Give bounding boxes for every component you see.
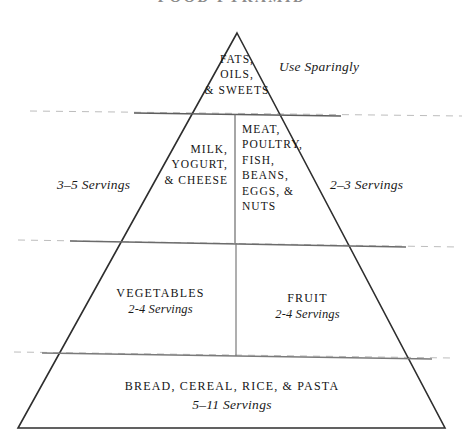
group-fruit: FRUIT 2-4 Servings bbox=[250, 290, 365, 323]
milk-line-3: & CHEESE bbox=[128, 173, 228, 188]
food-pyramid-figure: FOOD PYRAMID FATS, OILS, & SWEETS Use Sp… bbox=[0, 0, 464, 447]
use-sparingly-note: Use Sparingly bbox=[279, 58, 359, 76]
meat-line-3: FISH, bbox=[242, 153, 352, 168]
milk-line-1: MILK, bbox=[128, 142, 228, 157]
servings-fruit: 2-4 Servings bbox=[250, 306, 365, 323]
tier-divider-3 bbox=[42, 353, 432, 359]
meat-line-1: MEAT, bbox=[242, 122, 352, 137]
servings-meat-group: 2–3 Servings bbox=[330, 176, 403, 194]
meat-line-6: NUTS bbox=[242, 199, 352, 214]
vegetables-label: VEGETABLES bbox=[98, 285, 223, 301]
group-vegetables: VEGETABLES 2-4 Servings bbox=[98, 285, 223, 318]
base-label: BREAD, CEREAL, RICE, & PASTA bbox=[92, 378, 372, 394]
meat-line-2: POULTRY, bbox=[242, 137, 352, 152]
servings-milk-group: 3–5 Servings bbox=[57, 176, 130, 194]
group-meat-poultry-fish: MEAT, POULTRY, FISH, BEANS, EGGS, & NUTS bbox=[242, 122, 352, 214]
servings-vegetables: 2-4 Servings bbox=[98, 301, 223, 318]
group-bread-cereal-rice-pasta: BREAD, CEREAL, RICE, & PASTA 5–11 Servin… bbox=[92, 378, 372, 414]
fats-line-3: & SWEETS bbox=[172, 83, 302, 98]
servings-base: 5–11 Servings bbox=[92, 396, 372, 414]
group-milk-yogurt-cheese: MILK, YOGURT, & CHEESE bbox=[128, 142, 228, 188]
milk-line-2: YOGURT, bbox=[128, 157, 228, 172]
fruit-label: FRUIT bbox=[250, 290, 365, 306]
guide-line-3 bbox=[14, 352, 452, 358]
